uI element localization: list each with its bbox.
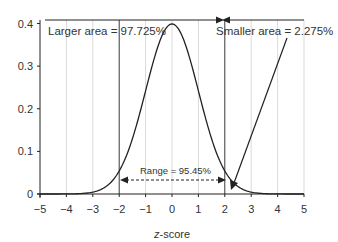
x-tick-label: 5 — [301, 203, 307, 215]
axes: 00.10.20.30.4−5−4−3−2−1012345 — [18, 18, 307, 216]
x-tick-label: −2 — [113, 203, 126, 215]
x-tick-label: −4 — [60, 203, 73, 215]
y-tick-label: 0.2 — [18, 103, 33, 115]
smaller-area-label: Smaller area = 2.275% — [216, 25, 333, 37]
normal-distribution-chart: 00.10.20.30.4−5−4−3−2−1012345 Larger are… — [0, 0, 338, 242]
x-tick-label: −1 — [139, 203, 152, 215]
range-label: Range = 95.45% — [140, 165, 212, 176]
y-tick-label: 0.3 — [18, 60, 33, 72]
x-tick-label: −3 — [87, 203, 100, 215]
larger-area-label: Larger area = 97.725% — [48, 25, 166, 37]
x-tick-label: 4 — [275, 203, 281, 215]
y-tick-label: 0.1 — [18, 145, 33, 157]
x-tick-label: 1 — [195, 203, 201, 215]
y-tick-label: 0 — [27, 188, 33, 200]
x-tick-label: 2 — [222, 203, 228, 215]
x-tick-label: −5 — [34, 203, 47, 215]
y-tick-label: 0.4 — [18, 18, 33, 30]
tail-pointer-arrow — [230, 38, 287, 190]
range-arrow — [120, 177, 226, 184]
x-tick-label: 3 — [248, 203, 254, 215]
area-arrows — [45, 17, 304, 24]
x-axis-label: z-score — [153, 228, 190, 240]
x-tick-label: 0 — [169, 203, 175, 215]
